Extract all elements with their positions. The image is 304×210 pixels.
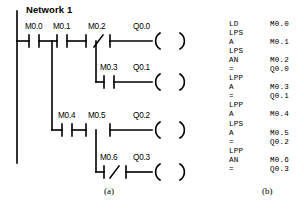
- stl-line: LPP: [229, 74, 301, 83]
- label-contact-m04: M0.4: [58, 111, 75, 120]
- stl-opcode: LD: [229, 20, 239, 29]
- label-contact-m02: M0.2: [88, 22, 105, 31]
- stl-operand: Q0.0: [270, 65, 289, 74]
- stl-opcode: =: [229, 92, 234, 101]
- label-coil-q01: Q0.1: [133, 63, 150, 72]
- stl-operand: M0.1: [270, 38, 289, 47]
- stl-line: =Q0.0: [229, 65, 301, 74]
- coil-q02-right-arc: [180, 122, 184, 138]
- label-contact-m00: M0.0: [25, 22, 42, 31]
- network-title: Network 1: [26, 4, 72, 15]
- stl-operand: M0.0: [270, 20, 289, 29]
- stl-operand: M0.5: [270, 129, 289, 138]
- label-contact-m03: M0.3: [100, 63, 117, 72]
- coil-q01-right-arc: [180, 74, 184, 90]
- stl-line: =Q0.3: [229, 165, 301, 174]
- stl-line: LPS: [229, 47, 301, 56]
- stl-opcode: A: [229, 110, 234, 119]
- caption-ladder: (a): [104, 186, 114, 196]
- stl-opcode: =: [229, 165, 234, 174]
- instruction-list: LDM0.0LPSAM0.1LPSANM0.2=Q0.0LPPAM0.3=Q0.…: [229, 20, 301, 174]
- stl-opcode: A: [229, 38, 234, 47]
- coil-q03-left-arc: [156, 164, 160, 180]
- stl-operand: Q0.2: [270, 138, 289, 147]
- coil-q02-left-arc: [156, 122, 160, 138]
- caption-stl: (b): [262, 186, 273, 196]
- stl-operand: M0.6: [270, 156, 289, 165]
- stl-operand: M0.2: [270, 56, 289, 65]
- contact-m06-slash: [110, 166, 119, 178]
- label-contact-m01: M0.1: [53, 22, 70, 31]
- stl-opcode: LPP: [229, 74, 243, 83]
- label-coil-q02: Q0.2: [133, 111, 150, 120]
- coil-q00-left-arc: [156, 33, 160, 49]
- stl-line: LPP: [229, 147, 301, 156]
- stl-line: =Q0.2: [229, 138, 301, 147]
- coil-q01-left-arc: [156, 74, 160, 90]
- stl-operand: Q0.1: [270, 92, 289, 101]
- stl-operand: M0.4: [270, 110, 289, 119]
- plc-ladder-figure: Network 1 M0.0 M0.1 M0.2 Q0.0 M0.3 Q0.1 …: [0, 0, 304, 210]
- stl-line: AM0.5: [229, 129, 301, 138]
- stl-opcode: AN: [229, 156, 239, 165]
- stl-opcode: LPS: [229, 29, 243, 38]
- stl-line: ANM0.6: [229, 156, 301, 165]
- stl-opcode: LPS: [229, 47, 243, 56]
- stl-operand: Q0.3: [270, 165, 289, 174]
- stl-line: LPS: [229, 120, 301, 129]
- stl-opcode: LPP: [229, 101, 243, 110]
- coil-q00-right-arc: [180, 33, 184, 49]
- stl-line: LDM0.0: [229, 20, 301, 29]
- stl-line: LPS: [229, 29, 301, 38]
- label-contact-m05: M0.5: [88, 111, 105, 120]
- label-coil-q00: Q0.0: [133, 22, 150, 31]
- stl-opcode: =: [229, 65, 234, 74]
- stl-operand: M0.3: [270, 83, 289, 92]
- stl-opcode: AN: [229, 56, 239, 65]
- stl-line: LPP: [229, 101, 301, 110]
- stl-line: AM0.4: [229, 110, 301, 119]
- stl-opcode: =: [229, 138, 234, 147]
- label-coil-q03: Q0.3: [133, 153, 150, 162]
- stl-line: ANM0.2: [229, 56, 301, 65]
- coil-q03-right-arc: [180, 164, 184, 180]
- stl-opcode: A: [229, 83, 234, 92]
- stl-opcode: LPP: [229, 147, 243, 156]
- stl-line: AM0.3: [229, 83, 301, 92]
- stl-opcode: LPS: [229, 120, 243, 129]
- label-contact-m06: M0.6: [100, 153, 117, 162]
- stl-line: AM0.1: [229, 38, 301, 47]
- stl-line: =Q0.1: [229, 92, 301, 101]
- stl-opcode: A: [229, 129, 234, 138]
